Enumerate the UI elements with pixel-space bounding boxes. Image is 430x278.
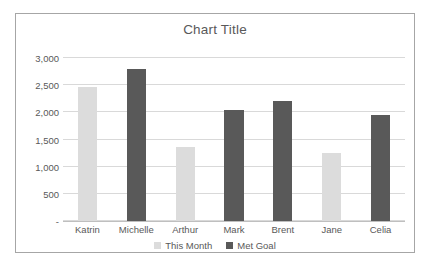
value-axis-tick-label: 1,000 bbox=[35, 161, 59, 172]
bar[interactable] bbox=[273, 101, 292, 221]
plot-area bbox=[63, 58, 405, 221]
bar[interactable] bbox=[371, 115, 390, 221]
value-axis-tick-label: 2,500 bbox=[35, 80, 59, 91]
category-axis: KatrinMichelleArthurMarkBrentJaneCelia bbox=[63, 224, 405, 235]
value-axis-tick-label: 500 bbox=[43, 188, 59, 199]
legend-swatch-icon bbox=[226, 242, 233, 249]
legend-label: Met Goal bbox=[237, 240, 276, 251]
value-axis-tick-label: 3,000 bbox=[35, 53, 59, 64]
value-axis-tick-label: 1,500 bbox=[35, 134, 59, 145]
bar[interactable] bbox=[224, 110, 243, 221]
bar[interactable] bbox=[127, 69, 146, 221]
bar-slot bbox=[356, 58, 405, 221]
legend-swatch-icon bbox=[154, 242, 161, 249]
value-axis-tick-label: 2,000 bbox=[35, 107, 59, 118]
legend-entry[interactable]: Met Goal bbox=[226, 240, 276, 251]
bar-slot bbox=[112, 58, 161, 221]
category-axis-label: Brent bbox=[258, 224, 307, 235]
bar-series-group bbox=[63, 58, 405, 221]
category-axis-line bbox=[63, 221, 405, 222]
bar[interactable] bbox=[176, 147, 195, 221]
bar-slot bbox=[307, 58, 356, 221]
category-axis-label: Celia bbox=[356, 224, 405, 235]
category-axis-label: Arthur bbox=[161, 224, 210, 235]
bar-slot bbox=[258, 58, 307, 221]
value-axis-tick-label: - bbox=[56, 216, 59, 227]
category-axis-label: Mark bbox=[210, 224, 259, 235]
category-axis-label: Katrin bbox=[63, 224, 112, 235]
value-axis: -5001,0001,5002,0002,5003,000 bbox=[19, 58, 59, 221]
chart-title: Chart Title bbox=[16, 22, 414, 37]
category-axis-label: Michelle bbox=[112, 224, 161, 235]
legend-label: This Month bbox=[165, 240, 212, 251]
bar[interactable] bbox=[78, 87, 97, 221]
category-axis-label: Jane bbox=[307, 224, 356, 235]
bar-slot bbox=[161, 58, 210, 221]
bar[interactable] bbox=[322, 153, 341, 221]
bar-slot bbox=[63, 58, 112, 221]
bar-slot bbox=[210, 58, 259, 221]
chart-legend: This MonthMet Goal bbox=[16, 240, 414, 251]
legend-entry[interactable]: This Month bbox=[154, 240, 212, 251]
chart-container[interactable]: Chart Title -5001,0001,5002,0002,5003,00… bbox=[15, 13, 415, 253]
